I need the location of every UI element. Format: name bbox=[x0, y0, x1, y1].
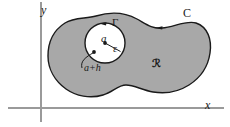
figure-container: y x C Γ a ε a+h ℛ bbox=[0, 0, 230, 127]
offset-point-label: a+h bbox=[84, 63, 101, 73]
y-axis-label: y bbox=[41, 4, 46, 16]
center-point-label: a bbox=[101, 33, 107, 44]
x-axis-label: x bbox=[205, 99, 210, 111]
radius-label: ε bbox=[113, 44, 117, 54]
outer-curve-label: C bbox=[183, 7, 191, 19]
shaded-region bbox=[48, 13, 210, 97]
region-label: ℛ bbox=[152, 58, 161, 69]
inner-curve-label: Γ bbox=[112, 17, 118, 28]
